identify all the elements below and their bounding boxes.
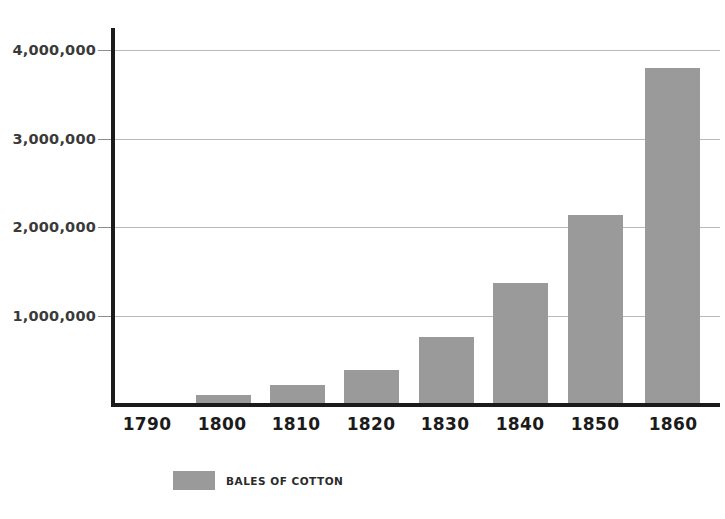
y-axis-line <box>111 28 115 406</box>
legend-swatch-bales-of-cotton <box>173 471 215 490</box>
plot-area <box>114 28 720 404</box>
x-axis-line <box>111 403 720 407</box>
gridline-4000000 <box>114 50 720 51</box>
y-tick-label-2000000: 2,000,000 <box>13 219 96 235</box>
x-tick-label-1840: 1840 <box>496 414 545 434</box>
bar-1860 <box>645 68 700 404</box>
bar-1850 <box>568 215 623 404</box>
bar-chart: 4,000,000 3,000,000 2,000,000 1,000,000 … <box>0 0 725 519</box>
x-tick-label-1850: 1850 <box>571 414 620 434</box>
y-tick-label-3000000: 3,000,000 <box>13 131 96 147</box>
gridline-2000000 <box>114 227 720 228</box>
chart-legend: BALES OF COTTON <box>173 471 343 490</box>
gridline-3000000 <box>114 139 720 140</box>
x-tick-label-1810: 1810 <box>272 414 321 434</box>
bar-1830 <box>419 337 474 404</box>
y-tick-label-4000000: 4,000,000 <box>13 42 96 58</box>
x-tick-label-1790: 1790 <box>123 414 172 434</box>
x-axis-labels: 1790 1800 1810 1820 1830 1840 1850 1860 <box>0 414 725 442</box>
bar-1840 <box>493 283 548 404</box>
x-tick-label-1830: 1830 <box>421 414 470 434</box>
bar-1820 <box>344 370 399 404</box>
x-tick-label-1820: 1820 <box>347 414 396 434</box>
bar-1810 <box>270 385 325 404</box>
x-tick-label-1800: 1800 <box>198 414 247 434</box>
gridline-1000000 <box>114 316 720 317</box>
y-tick-label-1000000: 1,000,000 <box>13 308 96 324</box>
legend-label-bales-of-cotton: BALES OF COTTON <box>226 475 343 487</box>
x-tick-label-1860: 1860 <box>649 414 698 434</box>
y-axis-labels: 4,000,000 3,000,000 2,000,000 1,000,000 <box>0 28 96 404</box>
